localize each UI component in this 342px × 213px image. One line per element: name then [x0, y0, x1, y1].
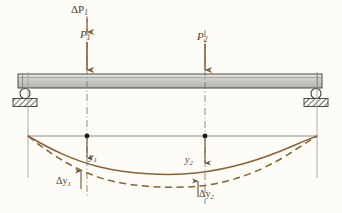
label-y1: y1	[89, 152, 97, 162]
beam-deflection-figure: ΔP1 P1 P2 y1 y2 Δy1 Δy2	[0, 0, 342, 213]
label-delta-y2-subscript: 2	[210, 193, 213, 200]
label-p2: P2	[197, 31, 207, 42]
incremental-deflection-curve	[28, 136, 317, 187]
label-delta-y2: Δy2	[199, 189, 214, 199]
figure-canvas	[0, 0, 342, 213]
label-p1: P1	[80, 29, 90, 40]
left-roller-circle	[20, 89, 30, 99]
node-dot-p2	[203, 134, 208, 139]
label-y2: y2	[185, 155, 193, 165]
right-roller-support	[304, 89, 328, 107]
label-p2-subscript: 2	[204, 35, 208, 44]
label-delta-y1: Δy1	[56, 176, 71, 186]
node-dot-p1	[85, 134, 90, 139]
right-support-hatch	[304, 99, 328, 107]
label-p2-symbol: P	[197, 30, 204, 42]
label-y1-subscript: 1	[93, 156, 96, 163]
label-delta-y1-symbol: Δy	[56, 175, 67, 186]
label-delta-p1-subscript: 1	[84, 8, 88, 17]
label-y2-subscript: 2	[189, 159, 192, 166]
right-roller-circle	[311, 89, 321, 99]
beam-body	[18, 74, 322, 88]
label-delta-y1-subscript: 1	[67, 180, 70, 187]
label-delta-y2-symbol: Δy	[199, 188, 210, 199]
label-p1-symbol: P	[80, 28, 87, 40]
beam-group	[18, 74, 322, 88]
label-delta-p1: ΔP1	[71, 4, 88, 15]
left-support-hatch	[13, 99, 37, 107]
label-delta-p1-symbol: ΔP	[71, 3, 84, 15]
label-p1-subscript: 1	[87, 33, 91, 42]
initial-deflection-curve	[28, 136, 317, 174]
left-roller-support	[13, 89, 37, 107]
